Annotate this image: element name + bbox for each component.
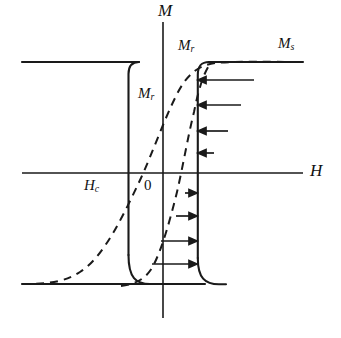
secondary-dashed-branch [121, 64, 210, 286]
arrow-dn-4 [152, 261, 197, 268]
loop-lower-right-corner [198, 258, 226, 284]
arrow-up-1 [198, 77, 254, 84]
arrow-group-lower-right-pointing [152, 190, 197, 268]
arrow-up-2 [198, 102, 241, 109]
ms-label: Ms [278, 36, 294, 52]
hysteresis-loop-figure: M H Mr Ms Mr Hc 0 [0, 0, 341, 338]
arrow-dn-3 [161, 238, 197, 245]
arrow-group-upper-left-pointing [198, 77, 254, 157]
loop-upper-right-corner [198, 62, 209, 258]
arrow-up-3 [198, 128, 228, 135]
origin-label: 0 [144, 178, 152, 193]
h-axis-label: H [310, 162, 322, 179]
arrow-dn-2 [176, 213, 197, 220]
mr-top-label: Mr [178, 38, 194, 54]
m-axis-label: M [158, 2, 172, 19]
mr-inner-label: Mr [138, 86, 154, 102]
hc-label: Hc [84, 178, 99, 194]
arrow-dn-1 [185, 190, 197, 197]
arrow-up-4 [198, 150, 214, 157]
